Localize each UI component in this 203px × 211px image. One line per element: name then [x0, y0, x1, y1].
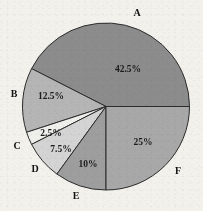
pie-category-label-b: B: [11, 88, 18, 99]
pie-value-label-a: 42.5%: [115, 64, 141, 74]
pie-value-label-f: 25%: [134, 137, 153, 147]
pie-category-label-e: E: [73, 190, 80, 201]
pie-category-label-a: A: [133, 7, 141, 18]
pie-chart-canvas: 42.5%12.5%2.5%7.5%10%25%ABCDEF: [0, 0, 203, 211]
pie-value-label-b: 12.5%: [38, 91, 64, 101]
pie-category-label-c: C: [13, 140, 20, 151]
pie-value-label-d: 7.5%: [50, 144, 71, 154]
pie-category-label-d: D: [31, 163, 38, 174]
pie-chart-figure: 42.5%12.5%2.5%7.5%10%25%ABCDEF: [0, 0, 203, 211]
pie-slice-f: [106, 107, 190, 191]
pie-category-label-f: F: [175, 165, 181, 176]
pie-value-label-c: 2.5%: [40, 128, 61, 138]
pie-value-label-e: 10%: [79, 159, 98, 169]
